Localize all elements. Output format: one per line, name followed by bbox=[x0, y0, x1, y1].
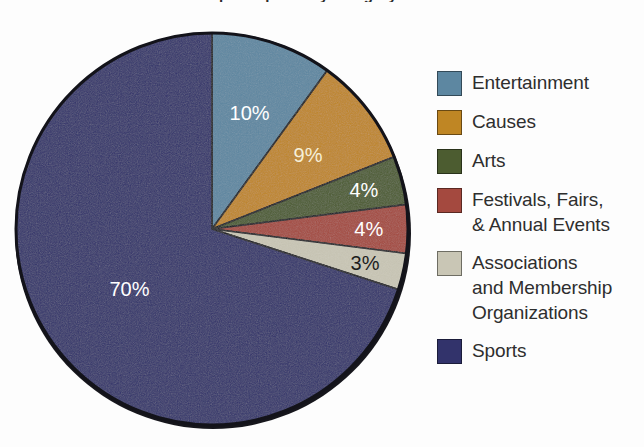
legend-item-causes[interactable]: Causes bbox=[437, 109, 637, 135]
legend-item-arts[interactable]: Arts bbox=[437, 148, 637, 174]
pie-slice-value-label: 3% bbox=[351, 252, 380, 274]
pie-chart-plot-area: 10%9%4%4%3%70% bbox=[14, 30, 414, 432]
pie-svg: 10%9%4%4%3%70% bbox=[14, 30, 414, 432]
legend-item-sports[interactable]: Sports bbox=[437, 338, 637, 364]
chart-title: Share of participants by category bbox=[110, 0, 440, 2]
pie-slice-value-label: 4% bbox=[349, 179, 378, 201]
legend-label-causes: Causes bbox=[472, 109, 536, 134]
legend-swatch-festivals bbox=[437, 188, 462, 213]
legend-swatch-sports bbox=[437, 339, 462, 364]
pie-slice-value-label: 9% bbox=[294, 144, 323, 166]
legend-item-festivals-fairs-annual-events[interactable]: Festivals, Fairs, & Annual Events bbox=[437, 187, 637, 237]
legend-label-sports: Sports bbox=[472, 338, 526, 363]
pie-slice-value-label: 10% bbox=[230, 102, 270, 124]
pie-chart-figure: Share of participants by category 10%9%4… bbox=[0, 0, 644, 447]
pie-slices-group bbox=[16, 33, 408, 425]
legend-swatch-arts bbox=[437, 149, 462, 174]
legend-swatch-entertainment bbox=[437, 71, 462, 96]
legend-swatch-causes bbox=[437, 110, 462, 135]
legend-label-festivals: Festivals, Fairs, & Annual Events bbox=[472, 187, 610, 237]
legend-label-arts: Arts bbox=[472, 148, 505, 173]
pie-slice-value-label: 4% bbox=[354, 218, 383, 240]
legend-label-entertainment: Entertainment bbox=[472, 70, 589, 95]
legend-item-entertainment[interactable]: Entertainment bbox=[437, 70, 637, 96]
pie-slice-value-label: 70% bbox=[109, 278, 149, 300]
legend-swatch-associations bbox=[437, 251, 462, 276]
chart-legend: Entertainment Causes Arts Festivals, Fai… bbox=[437, 70, 637, 377]
legend-item-associations-and-membership-organizations[interactable]: Associations and Membership Organization… bbox=[437, 250, 637, 325]
legend-label-associations: Associations and Membership Organization… bbox=[472, 250, 612, 325]
